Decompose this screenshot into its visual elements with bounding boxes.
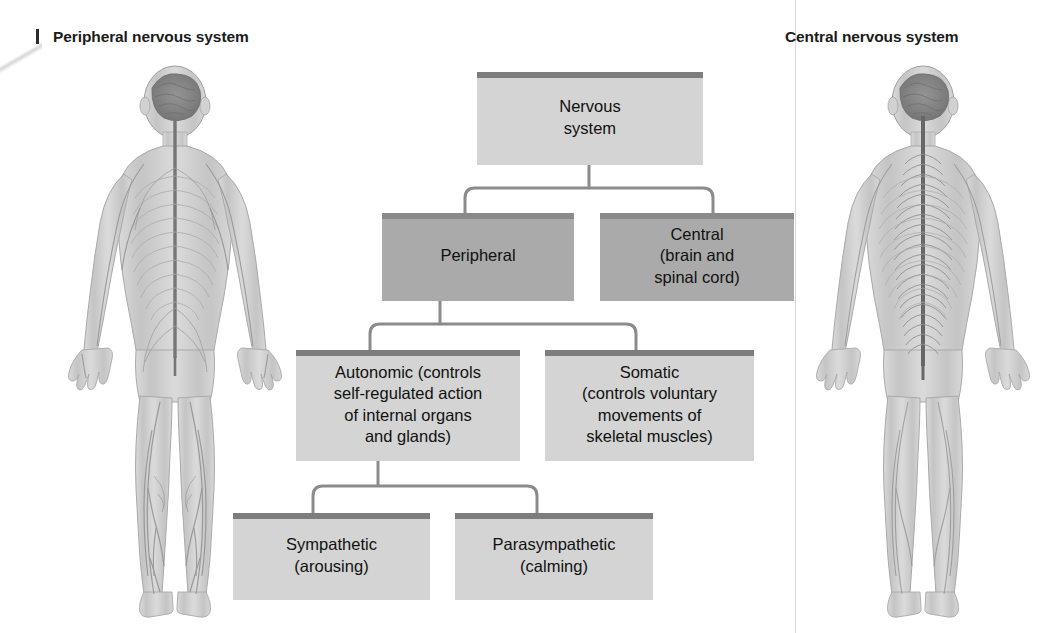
node-autonomic[interactable]: Autonomic (controls self-regulated actio… [296, 350, 520, 461]
node-autonomic-line1: Autonomic (controls [335, 363, 481, 381]
node-peripheral-label: Peripheral [388, 245, 568, 266]
node-nervous-system[interactable]: Nervous system [477, 72, 703, 165]
node-somatic[interactable]: Somatic (controls voluntary movements of… [545, 350, 754, 461]
node-central-line3: spinal cord) [654, 268, 739, 286]
node-nervous-system-line1: Nervous [559, 97, 620, 115]
node-autonomic-line2: self-regulated action [334, 384, 483, 402]
node-central[interactable]: Central (brain and spinal cord) [600, 213, 794, 301]
node-sympathetic-line2: (arousing) [294, 557, 368, 575]
node-sympathetic-label: Sympathetic (arousing) [239, 534, 424, 576]
node-parasympathetic-line2: (calming) [520, 557, 588, 575]
node-sympathetic[interactable]: Sympathetic (arousing) [233, 513, 430, 600]
heading-peripheral-nervous-system: Peripheral nervous system [53, 28, 249, 46]
connector-peripheral-to-children [300, 298, 720, 354]
node-autonomic-label: Autonomic (controls self-regulated actio… [302, 362, 514, 446]
node-parasympathetic[interactable]: Parasympathetic (calming) [455, 513, 653, 600]
node-somatic-line2: (controls voluntary [582, 384, 717, 402]
connector-autonomic-to-children [250, 460, 600, 516]
node-sympathetic-line1: Sympathetic [286, 535, 377, 553]
node-peripheral[interactable]: Peripheral [382, 213, 574, 301]
connector-nervous-system-to-children [380, 160, 800, 218]
heading-central-nervous-system: Central nervous system [785, 28, 959, 46]
node-autonomic-line4: and glands) [365, 427, 451, 445]
node-nervous-system-label: Nervous system [483, 96, 697, 138]
page-corner-shadow-artifact [0, 25, 42, 75]
node-peripheral-line1: Peripheral [440, 246, 515, 264]
node-parasympathetic-line1: Parasympathetic [493, 535, 616, 553]
node-central-line1: Central [670, 225, 723, 243]
node-central-line2: (brain and [660, 246, 734, 264]
node-somatic-label: Somatic (controls voluntary movements of… [551, 362, 748, 446]
page-edge-tick-artifact [36, 29, 39, 44]
page-seam-artifact [795, 0, 796, 633]
node-somatic-line3: movements of [598, 406, 702, 424]
central-nervous-system-body-figure [808, 58, 1038, 628]
node-somatic-line1: Somatic [620, 363, 680, 381]
node-nervous-system-line2: system [564, 119, 616, 137]
diagram-page: Peripheral nervous system Central nervou… [0, 0, 1051, 633]
node-central-label: Central (brain and spinal cord) [606, 224, 788, 287]
node-parasympathetic-label: Parasympathetic (calming) [461, 534, 647, 576]
node-somatic-line4: skeletal muscles) [586, 427, 713, 445]
node-autonomic-line3: of internal organs [344, 406, 472, 424]
